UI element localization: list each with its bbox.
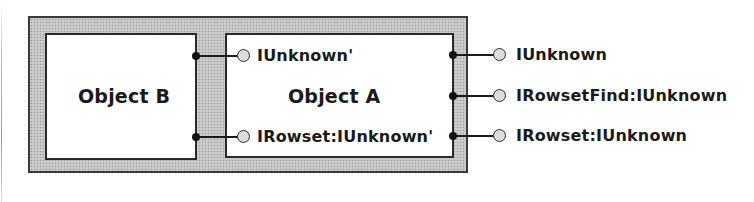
interface-lollipop-icon: [237, 49, 250, 62]
interface-label-iunknown: IUnknown: [516, 45, 607, 64]
interface-lollipop-icon: [237, 130, 250, 143]
connection-dot-icon: [192, 52, 200, 60]
connection-dot-icon: [449, 51, 457, 59]
connection-dot-icon: [192, 133, 200, 141]
connector-a-iunknown: [454, 54, 494, 56]
connector-b-iunknown-prime: [197, 55, 239, 57]
interface-label-iunknown-prime: IUnknown': [257, 46, 353, 65]
connector-a-irowset: [454, 135, 494, 137]
interface-label-irowsetfind-iunknown: IRowsetFind:IUnknown: [516, 86, 727, 105]
object-a-label: Object A: [288, 85, 380, 107]
interface-lollipop-icon: [493, 89, 506, 102]
connection-dot-icon: [449, 92, 457, 100]
object-b-label: Object B: [78, 85, 170, 107]
interface-lollipop-icon: [493, 129, 506, 142]
interface-lollipop-icon: [493, 48, 506, 61]
interface-label-irowset-iunknown: IRowset:IUnknown: [516, 126, 687, 145]
scan-edge-line: [1, 0, 2, 202]
connection-dot-icon: [449, 132, 457, 140]
connector-a-irowsetfind: [454, 95, 494, 97]
connector-b-irowset-prime: [197, 136, 239, 138]
interface-label-irowset-iunknown-prime: IRowset:IUnknown': [257, 127, 433, 146]
